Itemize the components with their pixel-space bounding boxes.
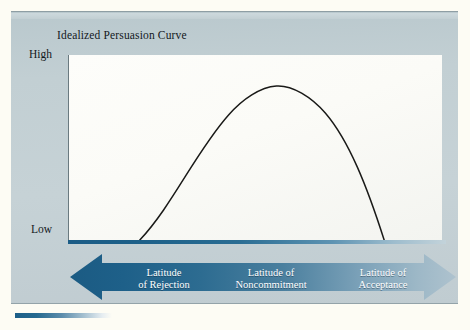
figure-panel: Idealized Persuasion Curve High Low <box>11 11 458 304</box>
latitude-noncommitment-line2: Noncommitment <box>215 279 327 291</box>
latitude-acceptance-line1: Latitude of <box>344 267 422 279</box>
y-axis-low-label: Low <box>31 223 52 235</box>
latitude-rejection-line1: Latitude <box>126 267 202 279</box>
latitude-label-noncommitment: Latitude of Noncommitment <box>215 267 327 290</box>
persuasion-curve-line <box>140 86 384 240</box>
panel-bottom-border <box>11 303 458 304</box>
latitude-label-rejection: Latitude of Rejection <box>126 267 202 290</box>
panel-top-highlight <box>11 13 458 19</box>
latitude-label-acceptance: Latitude of Acceptance <box>344 267 422 290</box>
latitude-arrow-band: Latitude of Rejection Latitude of Noncom… <box>68 252 458 302</box>
decorative-gradient-rule <box>15 313 112 318</box>
latitude-rejection-line2: of Rejection <box>126 279 202 291</box>
latitude-acceptance-line2: Acceptance <box>344 279 422 291</box>
latitude-noncommitment-line1: Latitude of <box>215 267 327 279</box>
persuasion-curve-chart <box>69 55 442 240</box>
plot-area <box>68 55 442 240</box>
x-axis-baseline <box>68 240 446 245</box>
y-axis-high-label: High <box>29 48 52 60</box>
page-title: Idealized Persuasion Curve <box>57 29 187 41</box>
